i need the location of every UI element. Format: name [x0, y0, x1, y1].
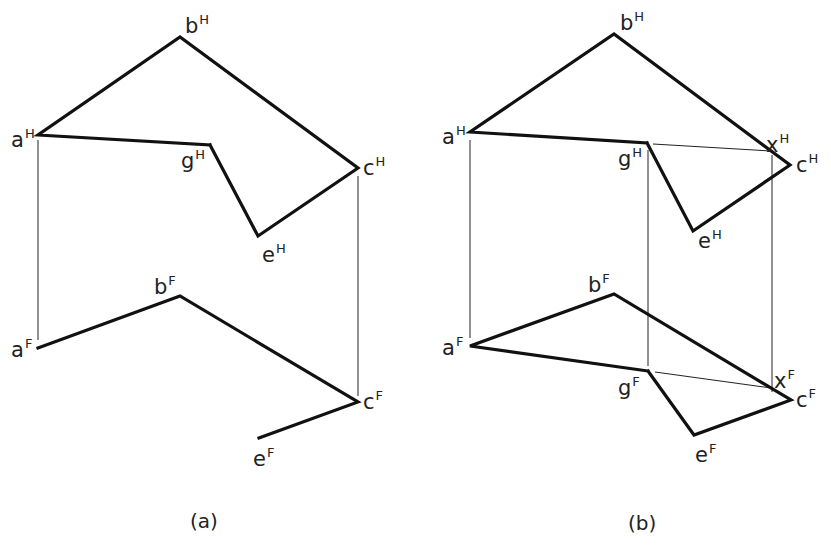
front-view-outline	[38, 296, 358, 438]
point-label-xf: xF	[774, 367, 795, 393]
construction-line	[655, 372, 771, 388]
top-view-outline	[38, 37, 358, 236]
top-view-outline	[470, 34, 790, 231]
point-label-gh: gH	[618, 145, 642, 171]
point-label-ef: eF	[253, 445, 274, 471]
point-label-ch: cH	[796, 151, 818, 177]
panel-caption: (a)	[190, 509, 218, 533]
point-label-bf: bF	[154, 273, 176, 299]
point-label-ah: aH	[11, 126, 35, 152]
point-label-gf: gF	[618, 374, 640, 400]
point-label-bf: bF	[588, 271, 610, 297]
point-label-ef: eF	[695, 441, 716, 467]
point-label-bh: bH	[185, 12, 209, 38]
panel-caption: (b)	[628, 511, 656, 535]
point-label-ch: cH	[363, 154, 385, 180]
point-label-bh: bH	[620, 9, 644, 35]
construction-line	[653, 144, 771, 151]
point-label-eh: eH	[698, 227, 722, 253]
orthographic-projection-diagram: aHbHcHeHgHaFbFcFeF(a) aHbHcHeHgHxHaFbFcF…	[0, 0, 831, 555]
point-label-af: aF	[442, 334, 463, 360]
point-label-gh: gH	[181, 147, 205, 173]
point-label-ah: aH	[442, 123, 466, 149]
point-label-cf: cF	[363, 388, 383, 414]
point-label-eh: eH	[262, 241, 286, 267]
front-view-outline	[470, 294, 791, 435]
point-label-cf: cF	[796, 386, 816, 412]
panel-a: aHbHcHeHgHaFbFcFeF(a)	[11, 12, 385, 533]
point-label-xh: xH	[766, 131, 789, 157]
panel-b: aHbHcHeHgHxHaFbFcFeFgFxF(b)	[442, 9, 818, 535]
point-label-af: aF	[11, 336, 32, 362]
